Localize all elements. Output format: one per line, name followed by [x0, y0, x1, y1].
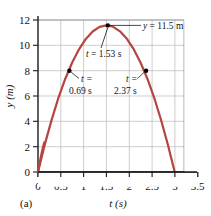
- marker-t-2-37: [144, 69, 148, 73]
- y-axis-ticks: [33, 20, 38, 172]
- y-axis-title: y (m): [3, 84, 16, 108]
- right-margin-mask: [185, 20, 211, 172]
- chart-svg: 12 10 8 6 4 2 0 0 0.5 1 1.5 2 2.5 3 3.5 …: [0, 0, 210, 216]
- annotation-apex-time-value: = 1.53 s: [89, 49, 122, 59]
- annotation-apex-height-value: = 11.5 m: [147, 21, 184, 31]
- y-tick-label-8: 8: [25, 65, 31, 77]
- y-tick-label-0: 0: [25, 166, 31, 178]
- panel-label: (a): [20, 197, 33, 210]
- y-tick-labels: 12 10 8 6 4 2 0: [19, 14, 31, 178]
- annotation-apex-height: y = 11.5 m: [142, 21, 184, 31]
- annotation-right-time-line2: 2.37 s: [114, 86, 137, 96]
- y-tick-label-10: 10: [19, 39, 31, 51]
- y-tick-label-12: 12: [19, 14, 30, 26]
- annotation-left-time-line1: t =: [81, 74, 92, 84]
- y-tick-label-6: 6: [25, 90, 31, 102]
- y-tick-label-2: 2: [25, 141, 31, 153]
- marker-t-0-69: [67, 69, 71, 73]
- y-tick-label-4: 4: [25, 115, 31, 127]
- annotation-apex-time: t = 1.53 s: [86, 49, 122, 59]
- annotation-left-time-line2: 0.69 s: [69, 86, 92, 96]
- x-axis-title: t (s): [109, 197, 127, 210]
- annotation-right-time-line1: t =: [126, 74, 137, 84]
- projectile-motion-figure: 12 10 8 6 4 2 0 0 0.5 1 1.5 2 2.5 3 3.5 …: [0, 0, 210, 216]
- below-axis-mask: [38, 173, 198, 187]
